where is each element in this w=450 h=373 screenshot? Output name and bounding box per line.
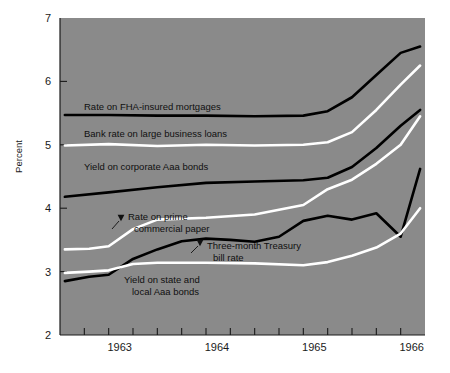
series-label: Rate on FHA-insured mortgages xyxy=(84,101,221,112)
x-tick-label: 1966 xyxy=(399,341,423,353)
interest-rates-chart: 234567 1963196419651966 Rate on FHA-insu… xyxy=(0,0,450,373)
y-tick-label: 7 xyxy=(45,12,51,24)
series-label: Three-month Treasury xyxy=(207,240,301,251)
chart-canvas: 234567 1963196419651966 Rate on FHA-insu… xyxy=(0,0,450,373)
series-label: Bank rate on large business loans xyxy=(84,128,227,139)
x-tick-label: 1963 xyxy=(107,341,131,353)
y-tick-label: 2 xyxy=(45,329,51,341)
series-label: bill rate xyxy=(213,252,244,263)
series-label: Yield on corporate Aaa bonds xyxy=(84,161,209,172)
y-tick-label: 3 xyxy=(45,266,51,278)
series-label: commercial paper xyxy=(134,223,210,234)
y-tick-label: 4 xyxy=(45,202,51,214)
x-tick-label: 1964 xyxy=(205,341,229,353)
y-axis-title: Percent xyxy=(13,140,24,173)
y-tick-label: 6 xyxy=(45,75,51,87)
series-label: Rate on prime xyxy=(128,211,188,222)
series-label: local Aaa bonds xyxy=(132,286,199,297)
plot-area xyxy=(60,18,425,335)
x-tick-label: 1965 xyxy=(302,341,326,353)
series-label: Yield on state and xyxy=(124,274,200,285)
y-tick-label: 5 xyxy=(45,139,51,151)
